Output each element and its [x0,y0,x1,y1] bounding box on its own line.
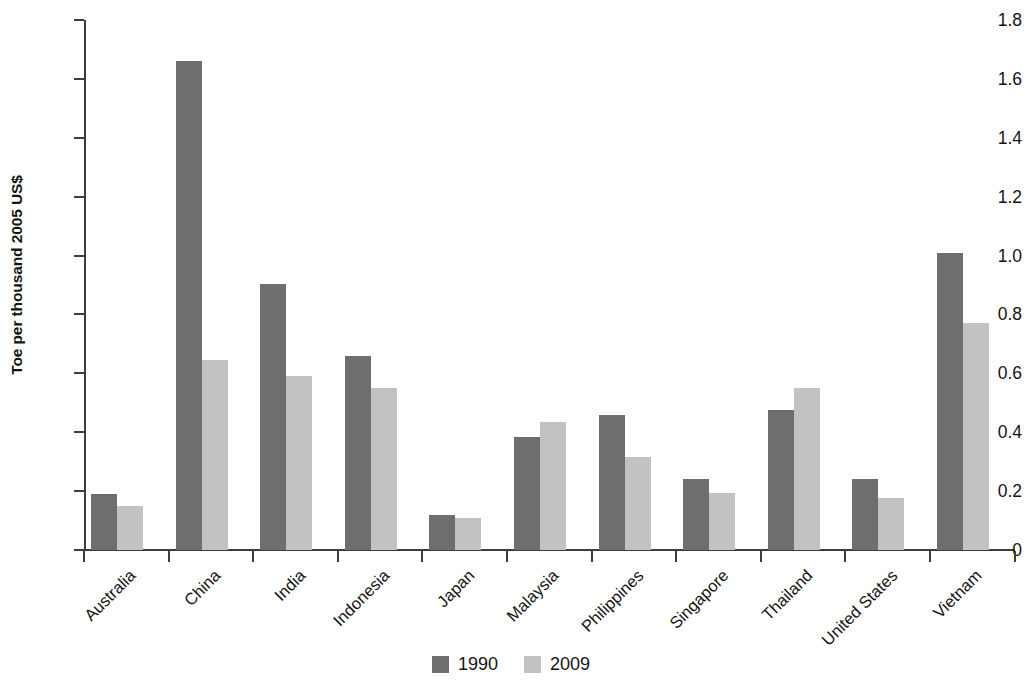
y-axis-tick [74,137,84,139]
x-axis-tick [929,551,931,562]
x-axis-category-label-text: Singapore [665,566,732,633]
x-axis-category-label-text: Malaysia [503,566,562,625]
bar [345,356,371,550]
x-axis-tick [844,551,846,562]
bar [455,518,481,550]
bar [260,284,286,550]
legend-item: 2009 [524,655,590,673]
legend-swatch [432,656,449,673]
y-axis-tick [74,490,84,492]
bar [540,422,566,550]
bars-layer [84,20,1015,550]
x-axis-tick [252,551,254,562]
y-axis-tick [74,431,84,433]
x-axis-category-label-text: Philippines [577,566,647,636]
bar [176,61,202,550]
x-axis-tick [168,551,170,562]
x-axis-tick [421,551,423,562]
x-axis-tick [591,551,593,562]
y-axis-tick [74,196,84,198]
y-axis-title: Toe per thousand 2005 US$ [2,0,32,550]
y-axis-tick [74,313,84,315]
x-axis-category-label-text: India [270,566,309,605]
x-axis-category-label-text: Australia [81,566,140,625]
bar [625,457,651,550]
legend-swatch [524,656,541,673]
bar [963,323,989,550]
bar [91,494,117,550]
y-axis-tick [74,372,84,374]
bar [709,493,735,550]
x-axis-tick [506,551,508,562]
x-axis-tick [760,551,762,562]
bar [202,360,228,550]
x-axis-category-label-text: China [180,566,224,610]
bar [878,498,904,550]
y-axis-title-text: Toe per thousand 2005 US$ [8,175,26,375]
legend-label: 1990 [458,655,498,673]
x-axis-tick [675,551,677,562]
bar [371,388,397,550]
x-axis-category-label-text: Vietnam [930,566,986,622]
bar [794,388,820,550]
legend-item: 1990 [432,655,498,673]
y-axis-tick [74,255,84,257]
x-axis-category-label-text: Japan [433,566,478,611]
bar [514,437,540,550]
x-axis-tick [1014,551,1016,562]
bar [117,506,143,550]
chart-legend: 19902009 [0,655,1022,673]
x-axis-category-label-text: Thailand [758,566,816,624]
x-axis-tick [83,551,85,562]
x-axis-category-label-text: Indonesia [329,566,393,630]
legend-label: 2009 [550,655,590,673]
x-axis-tick [337,551,339,562]
y-axis-tick [74,78,84,80]
bar [286,376,312,550]
y-axis-tick [74,19,84,21]
x-axis-category-label-text: United States [818,566,901,649]
